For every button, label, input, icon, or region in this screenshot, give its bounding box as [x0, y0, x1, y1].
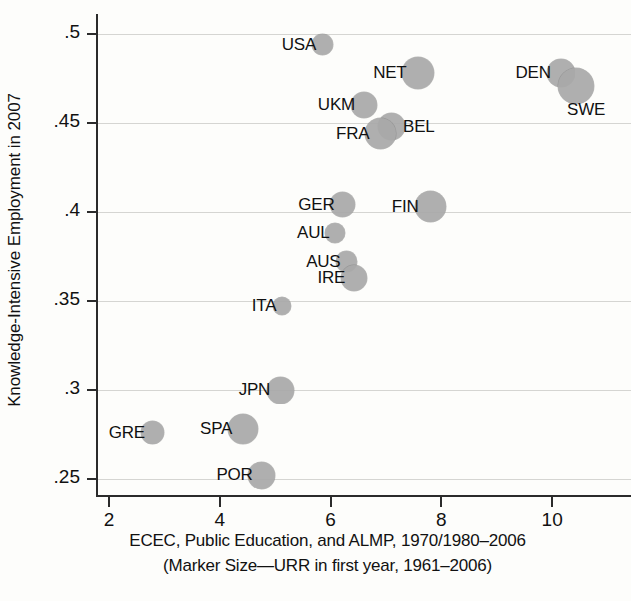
y-axis-tick: [87, 122, 97, 124]
y-axis-title: Knowledge-Intensive Employment in 2007: [0, 0, 30, 500]
y-axis-line: [96, 14, 98, 497]
y-axis-tick-label: .45: [20, 110, 80, 132]
x-axis-tick: [551, 497, 553, 507]
data-point-marker: [415, 191, 446, 222]
data-point-label: ITA: [252, 296, 277, 316]
data-point-label: UKM: [318, 95, 355, 115]
data-point-label: USA: [282, 35, 316, 55]
data-point-label: IRE: [317, 268, 345, 288]
y-axis-tick: [87, 211, 97, 213]
gridline-y: [97, 301, 631, 302]
y-axis-tick: [87, 33, 97, 35]
x-axis-title-line2: (Marker Size—URR in first year, 1961–200…: [30, 553, 625, 578]
data-point-marker: [365, 118, 396, 149]
x-axis-tick: [219, 497, 221, 507]
y-axis-tick: [87, 478, 97, 480]
gridline-y: [97, 212, 631, 213]
data-point-label: GRE: [109, 423, 145, 443]
x-axis-tick: [108, 497, 110, 507]
data-point-label: BEL: [403, 117, 435, 137]
y-axis-tick-label: .5: [20, 21, 80, 43]
scatter-plot-figure: Knowledge-Intensive Employment in 2007 .…: [0, 0, 631, 601]
data-point-label: SPA: [200, 419, 232, 439]
data-point-label: AUL: [297, 223, 329, 243]
y-axis-tick: [87, 389, 97, 391]
data-point-marker: [267, 377, 294, 404]
x-axis-title-line1: ECEC, Public Education, and ALMP, 1970/1…: [129, 531, 526, 550]
data-point-label: DEN: [516, 63, 551, 83]
data-point-label: SWE: [567, 100, 605, 120]
y-axis-title-text: Knowledge-Intensive Employment in 2007: [5, 93, 25, 407]
plot-area: [97, 14, 631, 497]
data-point-label: FRA: [336, 124, 369, 144]
x-axis-title: ECEC, Public Education, and ALMP, 1970/1…: [30, 528, 625, 578]
gridline-y: [97, 390, 631, 391]
x-axis-tick: [440, 497, 442, 507]
gridline-y: [97, 34, 631, 35]
y-axis-tick-label: .35: [20, 288, 80, 310]
gridline-y: [97, 479, 631, 480]
data-point-label: JPN: [239, 380, 271, 400]
data-point-marker: [558, 68, 594, 104]
y-axis-tick-label: .3: [20, 377, 80, 399]
data-point-label: GER: [298, 195, 334, 215]
data-point-label: FIN: [392, 197, 419, 217]
y-axis-tick: [87, 300, 97, 302]
y-axis-tick-label: .4: [20, 199, 80, 221]
data-point-label: NET: [373, 63, 406, 83]
data-point-label: POR: [216, 465, 252, 485]
y-axis-tick-label: .25: [20, 466, 80, 488]
x-axis-tick: [330, 497, 332, 507]
